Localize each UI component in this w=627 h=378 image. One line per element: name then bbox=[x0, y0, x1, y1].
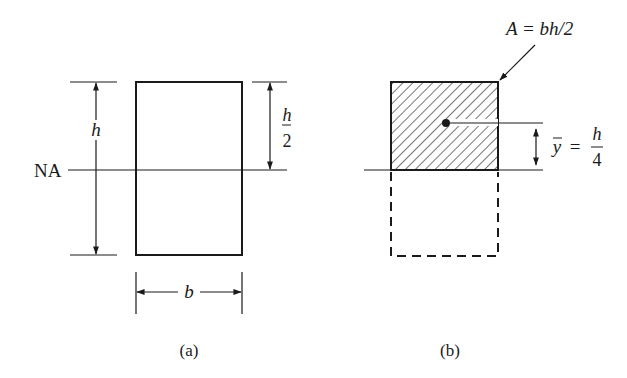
beam-section-diagram: h NA h 2 b (a) A = bh/2 y = h 4 (b) bbox=[0, 0, 627, 378]
caption-b: (b) bbox=[440, 341, 460, 360]
caption-a: (a) bbox=[180, 341, 199, 360]
half-h-numerator: h bbox=[283, 105, 292, 125]
rect-section bbox=[136, 82, 242, 255]
centroid-dot bbox=[442, 119, 450, 127]
area-leader-arrow bbox=[500, 45, 535, 80]
area-label: A = bh/2 bbox=[504, 18, 574, 39]
ybar-equals: = bbox=[570, 136, 581, 157]
ybar-denominator: 4 bbox=[593, 150, 602, 170]
figure-a: h NA h 2 b (a) bbox=[34, 82, 292, 360]
ybar-symbol: y bbox=[551, 136, 562, 157]
ybar-numerator: h bbox=[593, 124, 602, 144]
lower-half-dashed bbox=[391, 172, 498, 256]
b-label: b bbox=[184, 281, 194, 302]
h-label: h bbox=[91, 119, 101, 140]
neutral-axis-label: NA bbox=[34, 160, 62, 181]
figure-b: A = bh/2 y = h 4 (b) bbox=[364, 18, 603, 360]
half-h-denominator: 2 bbox=[283, 131, 292, 151]
